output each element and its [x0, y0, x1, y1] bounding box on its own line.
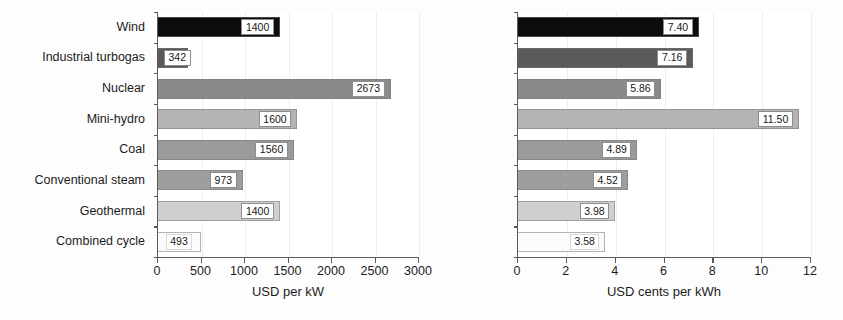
- x-axis-tick-label: 2000: [317, 264, 345, 278]
- x-axis-tick-label: 8: [709, 264, 716, 278]
- category-axis: WindIndustrial turbogasNuclearMini-hydro…: [4, 12, 152, 257]
- x-axis-tick: [810, 258, 811, 263]
- x-axis-tick: [761, 258, 762, 263]
- bar-value-label: 7.16: [657, 50, 686, 66]
- bar-value-label: 4.52: [593, 172, 622, 188]
- x-axis-tick-label: 500: [190, 264, 211, 278]
- bar-value-label: 4.89: [602, 142, 631, 158]
- bar-row: 7.40: [518, 12, 811, 43]
- figure-two-bar-charts: WindIndustrial turbogasNuclearMini-hydro…: [0, 0, 843, 320]
- x-axis-tick: [331, 258, 332, 263]
- x-axis-tick: [566, 258, 567, 263]
- bar-row: 973: [158, 165, 419, 196]
- x-axis-tick-label: 1500: [274, 264, 302, 278]
- x-axis-tick: [664, 258, 665, 263]
- bar-row: 2673: [158, 73, 419, 104]
- bar-row: 3.58: [518, 226, 811, 257]
- gridline: [419, 12, 420, 257]
- bar-value-label: 1560: [255, 142, 287, 158]
- category-label: Conventional steam: [4, 165, 152, 196]
- bar[interactable]: 7.40: [518, 17, 699, 37]
- bar-row: 1400: [158, 12, 419, 43]
- bar-value-label: 1600: [259, 111, 291, 127]
- bar[interactable]: 4.89: [518, 140, 637, 160]
- bar-value-label: 11.50: [758, 111, 793, 127]
- bar-value-label: 1400: [241, 19, 273, 35]
- bar-row: 5.86: [518, 73, 811, 104]
- bar[interactable]: 2673: [158, 79, 391, 99]
- x-axis-tick-label: 6: [660, 264, 667, 278]
- chart-panel-generation-cost: 7.407.165.8611.504.894.523.983.58 USD ce…: [460, 0, 843, 320]
- category-label: Coal: [4, 135, 152, 166]
- bar-row: 3.98: [518, 196, 811, 227]
- x-axis-tick-label: 3000: [404, 264, 432, 278]
- bar-row: 1600: [158, 104, 419, 135]
- bar-value-label: 3.58: [570, 234, 599, 250]
- bar-value-label: 5.86: [626, 81, 655, 97]
- category-label: Geothermal: [4, 196, 152, 227]
- bar[interactable]: 11.50: [518, 109, 799, 129]
- bar[interactable]: 342: [158, 48, 188, 68]
- gridline: [811, 12, 812, 257]
- bar-row: 493: [158, 226, 419, 257]
- category-label: Combined cycle: [4, 226, 152, 257]
- bar-value-label: 342: [164, 50, 191, 66]
- x-axis-tick: [201, 258, 202, 263]
- bar-row: 4.89: [518, 135, 811, 166]
- bar-value-label: 1400: [241, 203, 273, 219]
- x-axis-tick-label: 2: [562, 264, 569, 278]
- category-label: Mini-hydro: [4, 104, 152, 135]
- bar[interactable]: 4.52: [518, 170, 628, 190]
- x-axis-tick: [157, 258, 158, 263]
- bar[interactable]: 1400: [158, 201, 280, 221]
- x-axis-tick: [712, 258, 713, 263]
- bar-series-generation-cost: 7.407.165.8611.504.894.523.983.58: [518, 12, 811, 257]
- bar-value-label: 493: [166, 234, 193, 250]
- bar-row: 1400: [158, 196, 419, 227]
- x-axis-tick-label: 0: [154, 264, 161, 278]
- x-axis-tick: [615, 258, 616, 263]
- x-axis-tick: [517, 258, 518, 263]
- x-axis-tick: [288, 258, 289, 263]
- bar[interactable]: 5.86: [518, 79, 661, 99]
- bar[interactable]: 3.58: [518, 232, 605, 252]
- bar-value-label: 2673: [352, 81, 384, 97]
- x-axis-capital-cost: USD per kW 050010001500200025003000: [157, 258, 419, 298]
- bar-row: 4.52: [518, 165, 811, 196]
- x-axis-tick: [375, 258, 376, 263]
- x-axis-tick-label: 12: [803, 264, 817, 278]
- category-label: Industrial turbogas: [4, 43, 152, 74]
- plot-area-capital-cost: 14003422673160015609731400493: [157, 12, 419, 258]
- x-axis-tick: [244, 258, 245, 263]
- plot-area-generation-cost: 7.407.165.8611.504.894.523.983.58: [517, 12, 811, 258]
- bar-row: 342: [158, 43, 419, 74]
- x-axis-tick-label: 10: [754, 264, 768, 278]
- bar-value-label: 973: [210, 172, 237, 188]
- x-axis-tick-label: 4: [611, 264, 618, 278]
- category-label: Nuclear: [4, 73, 152, 104]
- x-axis-tick-label: 2500: [361, 264, 389, 278]
- bar-series-capital-cost: 14003422673160015609731400493: [158, 12, 419, 257]
- bar-row: 7.16: [518, 43, 811, 74]
- bar[interactable]: 973: [158, 170, 243, 190]
- bar-row: 11.50: [518, 104, 811, 135]
- bar[interactable]: 493: [158, 232, 201, 252]
- bar[interactable]: 7.16: [518, 48, 693, 68]
- bar[interactable]: 3.98: [518, 201, 615, 221]
- bar-value-label: 3.98: [580, 203, 609, 219]
- x-axis-generation-cost: USD cents per kWh 024681012: [517, 258, 811, 298]
- bar-row: 1560: [158, 135, 419, 166]
- bar[interactable]: 1600: [158, 109, 297, 129]
- category-label: Wind: [4, 12, 152, 43]
- chart-panel-capital-cost: WindIndustrial turbogasNuclearMini-hydro…: [0, 0, 460, 320]
- x-axis-tick-label: 1000: [230, 264, 258, 278]
- bar[interactable]: 1400: [158, 17, 280, 37]
- x-axis-title: USD cents per kWh: [517, 284, 811, 299]
- x-axis-tick: [418, 258, 419, 263]
- bar[interactable]: 1560: [158, 140, 294, 160]
- x-axis-tick-label: 0: [514, 264, 521, 278]
- x-axis-title: USD per kW: [157, 284, 419, 299]
- bar-value-label: 7.40: [663, 19, 692, 35]
